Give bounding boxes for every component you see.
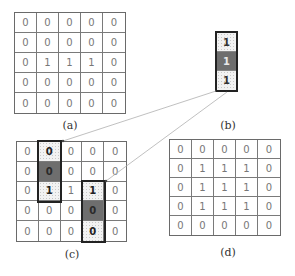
connector-line-2 [106, 92, 227, 181]
connector-lines [0, 0, 295, 276]
connector-line-1 [63, 91, 216, 141]
